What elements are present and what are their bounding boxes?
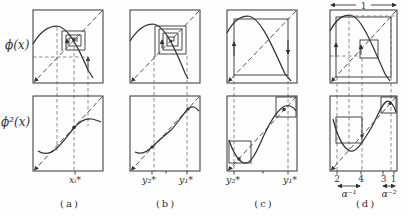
panel-d-caption: (d): [356, 198, 376, 209]
panel-c-second-iterate-curve: [229, 106, 296, 164]
panel-d-scale-label-alpha2: α⁻²: [381, 188, 396, 199]
panel-a-caption: (a): [60, 198, 80, 209]
panel-a-second-iterate-curve: [38, 119, 101, 154]
panel-d-tick-label-1: 1: [391, 174, 397, 184]
panel-c-caption: (c): [254, 198, 273, 209]
panel-d-tick-label-4: 4: [358, 174, 364, 184]
panel-a: xᵢ* (a): [33, 10, 103, 209]
panel-b-caption: (b): [156, 198, 176, 209]
panel-d: 1 2 4 3 1 α⁻¹ α⁻² (d): [330, 1, 397, 210]
panel-d-tick-label-3: 3: [381, 174, 387, 184]
panel-a-bottom-diagonal: [35, 97, 103, 170]
panel-a-bottom-fixed-point-dot: [72, 126, 76, 130]
panel-d-second-iterate-curve: [333, 101, 396, 151]
panel-b-tick-label-y2: y₂*: [141, 174, 156, 185]
panel-b-left-fixed-point-dot: [150, 145, 153, 148]
panel-d-scale-label-alpha1: α⁻¹: [341, 188, 356, 199]
panel-b-right-fixed-point-dot: [186, 107, 189, 110]
panel-d-width-label: 1: [361, 1, 367, 11]
panel-d-inner-cycle-square: [360, 40, 378, 58]
panel-d-right-fixed-point-dot: [388, 102, 391, 105]
panel-c-tick-label-y2: y₂*: [225, 174, 240, 185]
row-label-phi: ϕ(x): [5, 38, 30, 52]
panel-b-second-iterate-curve: [135, 107, 199, 153]
row-label-phi-squared: ϕ²(x): [1, 115, 30, 129]
panel-a-tick-label: xᵢ*: [69, 174, 81, 185]
panel-d-bottom-diagonal: [332, 97, 397, 170]
panel-b: y₂* y₁* (b): [130, 10, 200, 209]
figure-canvas: ϕ(x) ϕ²(x) xᵢ* (a): [0, 0, 409, 218]
panel-c-left-fixed-point-dot: [237, 157, 240, 160]
panel-d-tick-label-2: 2: [334, 174, 340, 184]
panel-c: y₂* y₁* (c): [225, 10, 297, 209]
cobweb-figure: ϕ(x) ϕ²(x) xᵢ* (a): [0, 0, 409, 218]
panel-b-fixed-point-dot: [170, 40, 173, 43]
panel-b-tick-label-y1: y₁*: [178, 174, 193, 185]
panel-c-right-fixed-point-dot: [282, 108, 285, 111]
panel-d-top-diagonal: [332, 11, 397, 82]
panel-d-left-fixed-point-dot: [360, 134, 363, 137]
panel-c-tick-label-y1: y₁*: [282, 174, 297, 185]
panel-b-top-diagonal: [132, 11, 200, 82]
panel-a-top-diagonal: [35, 11, 103, 82]
panel-c-top-diagonal: [229, 11, 297, 82]
